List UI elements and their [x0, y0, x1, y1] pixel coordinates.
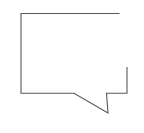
canvas-background: [0, 0, 144, 133]
drawing-canvas: [0, 0, 144, 133]
speech-bubble-svg: [0, 0, 144, 133]
